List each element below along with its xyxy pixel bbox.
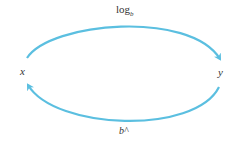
log-base-subscript: b (130, 10, 134, 18)
bottom-arrow-exp (28, 85, 219, 121)
bottom-edge-label: b^ (119, 126, 128, 136)
top-arrow-log (27, 26, 220, 59)
node-y: y (218, 67, 223, 78)
log-label: log (116, 3, 130, 15)
top-edge-label: logb (116, 4, 134, 15)
node-x: x (20, 66, 25, 77)
